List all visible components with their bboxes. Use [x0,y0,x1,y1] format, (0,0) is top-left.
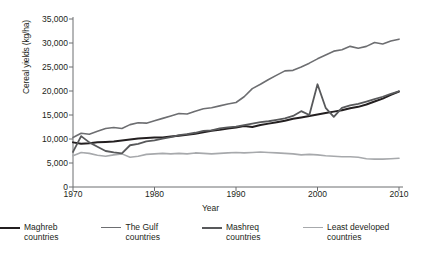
legend-item[interactable]: Mashreq countries [202,222,292,242]
series-line [73,91,399,143]
legend-label: The Gulf countries [125,222,191,242]
series-line [73,84,399,153]
legend-item[interactable]: The Gulf countries [101,222,191,242]
legend-swatch-icon [101,227,121,228]
legend-label: Maghreb countries [24,222,90,242]
chart-legend: Maghreb countriesThe Gulf countriesMashr… [0,222,421,242]
legend-item[interactable]: Maghreb countries [0,222,90,242]
cereal-yields-chart: Cereal yields (kg/ha) Year 05,00010,0001… [0,0,421,270]
legend-swatch-icon [303,227,323,228]
legend-label: Mashreq countries [226,222,292,242]
legend-swatch-icon [0,227,20,229]
series-line [73,39,399,137]
legend-label: Least developed countries [327,222,421,242]
legend-swatch-icon [202,227,222,229]
legend-item[interactable]: Least developed countries [303,222,421,242]
